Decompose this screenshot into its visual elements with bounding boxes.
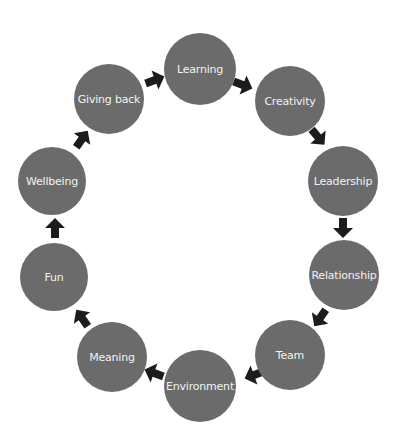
- node-label: Fun: [44, 271, 63, 284]
- node-label: Leadership: [314, 175, 372, 188]
- node-fun: Fun: [20, 243, 88, 311]
- node-environment: Environment: [164, 350, 236, 422]
- node-leadership: Leadership: [308, 146, 378, 216]
- node-wellbeing: Wellbeing: [18, 147, 86, 215]
- node-meaning: Meaning: [77, 322, 147, 392]
- node-label: Team: [276, 349, 304, 362]
- node-creativity: Creativity: [255, 66, 325, 136]
- arrow-icon: [332, 217, 354, 239]
- node-label: Wellbeing: [26, 175, 78, 188]
- node-label: Environment: [166, 380, 234, 393]
- node-label: Creativity: [264, 95, 315, 108]
- node-relationship: Relationship: [309, 240, 379, 310]
- node-learning: Learning: [164, 33, 236, 105]
- arrow-icon: [44, 217, 66, 239]
- node-label: Relationship: [311, 269, 376, 282]
- node-giving-back: Giving back: [74, 64, 144, 134]
- node-label: Learning: [177, 63, 223, 76]
- node-label: Meaning: [89, 351, 135, 364]
- node-label: Giving back: [78, 93, 141, 106]
- cycle-diagram: LearningCreativityLeadershipRelationship…: [0, 0, 396, 447]
- node-team: Team: [255, 320, 325, 390]
